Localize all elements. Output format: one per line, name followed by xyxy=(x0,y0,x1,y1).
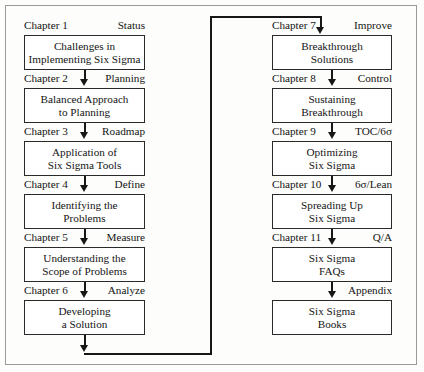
node-box-chapter-6[interactable]: Developing a Solution xyxy=(24,300,145,335)
node-box-chapter-7[interactable]: Breakthrough Solutions xyxy=(272,35,392,70)
phase-label-1: Status xyxy=(45,19,145,31)
node-line-6a: Developing xyxy=(58,305,110,318)
phase-label-5: Measure xyxy=(45,231,145,243)
node-line-5b: Scope of Problems xyxy=(42,265,127,278)
phase-label-4: Define xyxy=(45,178,145,190)
phase-label-2: Planning xyxy=(45,72,145,84)
node-line-1a: Challenges in xyxy=(54,40,115,53)
node-box-chapter-2[interactable]: Balanced Approach to Planning xyxy=(24,88,145,123)
node-box-chapter-1[interactable]: Challenges in Implementing Six Sigma xyxy=(24,35,145,70)
node-box-chapter-11[interactable]: Six Sigma FAQs xyxy=(272,247,392,282)
phase-label-3: Roadmap xyxy=(45,125,145,137)
node-box-chapter-4[interactable]: Identifying the Problems xyxy=(24,194,145,229)
phase-label-6: Analyze xyxy=(45,284,145,296)
node-box-chapter-3[interactable]: Application of Six Sigma Tools xyxy=(24,141,145,176)
node-line-appendix-a: Six Sigma xyxy=(309,305,355,318)
phase-label-9: TOC/6σ xyxy=(293,125,392,137)
node-line-7a: Breakthrough xyxy=(301,40,363,53)
node-line-9b: Six Sigma xyxy=(309,159,355,172)
node-line-appendix-b: Books xyxy=(318,318,347,331)
route-vertical-middle xyxy=(210,16,212,355)
route-arrowhead-chapter-6-exit xyxy=(80,345,88,352)
node-line-10b: Six Sigma xyxy=(309,212,355,225)
node-box-chapter-10[interactable]: Spreading Up Six Sigma xyxy=(272,194,392,229)
node-line-10a: Spreading Up xyxy=(301,199,363,212)
node-line-3b: Six Sigma Tools xyxy=(48,159,122,172)
node-box-chapter-5[interactable]: Understanding the Scope of Problems xyxy=(24,247,145,282)
node-line-8b: Breakthrough xyxy=(301,106,363,119)
node-line-4a: Identifying the xyxy=(51,199,117,212)
phase-label-7: Improve xyxy=(293,19,392,31)
phase-label-8: Control xyxy=(293,72,392,84)
node-line-11b: FAQs xyxy=(319,265,345,278)
node-line-8a: Sustaining xyxy=(308,93,355,106)
node-box-chapter-8[interactable]: Sustaining Breakthrough xyxy=(272,88,392,123)
node-line-4b: Problems xyxy=(63,212,105,225)
node-line-2b: to Planning xyxy=(59,106,110,119)
route-horizontal-bottom xyxy=(84,353,212,355)
node-line-7b: Solutions xyxy=(311,53,353,66)
node-box-chapter-9[interactable]: Optimizing Six Sigma xyxy=(272,141,392,176)
phase-label-10: 6σ/Lean xyxy=(293,178,392,190)
node-line-2a: Balanced Approach xyxy=(41,93,129,106)
node-line-3a: Application of xyxy=(52,146,117,159)
diagram-page: Chapter 1 Status Challenges in Implement… xyxy=(0,0,424,372)
phase-label-11: Q/A xyxy=(293,231,392,243)
route-horizontal-top xyxy=(210,16,322,18)
node-line-6b: a Solution xyxy=(62,318,108,331)
node-line-5a: Understanding the xyxy=(43,252,125,265)
node-line-1b: Implementing Six Sigma xyxy=(29,53,141,66)
node-line-11a: Six Sigma xyxy=(309,252,355,265)
phase-label-appendix: Appendix xyxy=(293,284,392,296)
node-box-appendix[interactable]: Six Sigma Books xyxy=(272,300,392,335)
node-line-9a: Optimizing xyxy=(307,146,358,159)
